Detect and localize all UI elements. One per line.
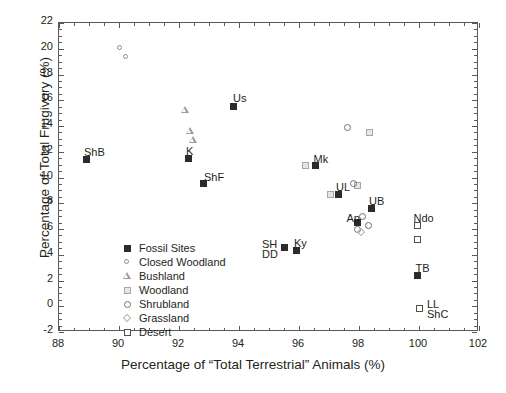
data-point-circle: [350, 180, 357, 187]
y-axis-tick: [59, 326, 62, 327]
x-axis-tick-top: [329, 23, 330, 26]
y-axis-tick: [59, 42, 62, 43]
y-axis-tick: [59, 306, 64, 307]
y-axis-tick-right: [474, 216, 477, 217]
y-axis-tick: [59, 229, 64, 230]
x-axis-tick-top: [74, 23, 75, 26]
y-axis-tick-label: 4: [23, 246, 53, 258]
legend-label: Woodland: [139, 284, 188, 296]
x-axis-tick-top: [299, 23, 300, 28]
data-point-small-square: [327, 191, 334, 198]
y-axis-tick-right: [474, 36, 477, 37]
y-axis-tick-right: [472, 255, 477, 256]
y-axis-tick-right: [474, 235, 477, 236]
data-point-label: UL: [336, 181, 350, 193]
data-point-label: DD: [262, 248, 278, 260]
x-axis-tick-label: 88: [38, 337, 78, 349]
data-point-triangle: [189, 136, 197, 143]
x-axis-tick: [359, 326, 360, 331]
data-point-label: TB: [416, 262, 430, 274]
scatter-plot-figure: Percentage of Total Frugivory (%) Percen…: [0, 0, 506, 393]
legend-label: Grassland: [139, 312, 189, 324]
x-axis-tick: [464, 328, 465, 331]
legend-item-woodland[interactable]: Woodland: [119, 283, 259, 297]
x-axis-tick: [479, 326, 480, 331]
x-axis-tick-top: [479, 23, 480, 28]
y-axis-tick-right: [474, 300, 477, 301]
x-axis-tick-label: 102: [458, 337, 498, 349]
data-point-label: Ky: [294, 237, 307, 249]
legend-item-grassland[interactable]: Grassland: [119, 311, 259, 325]
x-axis-title: Percentage of “Total Terrestrial” Animal…: [0, 357, 506, 372]
y-axis-tick: [59, 332, 64, 333]
y-axis-tick-right: [474, 184, 477, 185]
y-axis-tick-right: [474, 81, 477, 82]
x-axis-tick: [119, 326, 120, 331]
x-axis-tick-label: 100: [398, 337, 438, 349]
data-point-triangle: [181, 106, 189, 113]
y-axis-tick: [59, 75, 64, 76]
x-axis-tick-label: 96: [278, 337, 318, 349]
y-axis-tick: [59, 287, 62, 288]
x-axis-tick-top: [149, 23, 150, 26]
data-point-label: ShB: [84, 146, 105, 158]
x-axis-tick: [269, 328, 270, 331]
x-axis-tick-top: [344, 23, 345, 26]
x-axis-tick: [89, 328, 90, 331]
data-point-circle: [359, 213, 366, 220]
data-point-triangle: [186, 127, 194, 134]
x-axis-tick-top: [209, 23, 210, 26]
y-axis-tick-right: [474, 248, 477, 249]
y-axis-tick: [59, 216, 62, 217]
y-axis-tick: [59, 107, 62, 108]
y-axis-tick: [59, 68, 62, 69]
legend-item-shrubland[interactable]: Shrubland: [119, 297, 259, 311]
y-axis-tick-right: [474, 55, 477, 56]
x-axis-tick-top: [194, 23, 195, 26]
x-axis-tick-label: 92: [158, 337, 198, 349]
legend: Fossil SitesClosed WoodlandBushlandWoodl…: [119, 241, 259, 339]
y-axis-tick: [59, 255, 64, 256]
data-point-label: ShC: [427, 308, 448, 320]
data-point-filled-square: [281, 244, 288, 251]
data-point-label: ShF: [204, 171, 224, 183]
y-axis-tick-right: [474, 29, 477, 30]
y-axis-tick: [59, 313, 62, 314]
x-axis-tick-top: [224, 23, 225, 26]
y-axis-tick-right: [474, 107, 477, 108]
x-axis-tick-top: [314, 23, 315, 26]
x-axis-tick-top: [374, 23, 375, 26]
y-axis-tick: [59, 281, 64, 282]
x-axis-tick: [419, 326, 420, 331]
y-axis-tick: [59, 132, 62, 133]
y-axis-tick: [59, 235, 62, 236]
x-axis-tick: [149, 328, 150, 331]
y-axis-tick-right: [474, 319, 477, 320]
y-axis-tick: [59, 165, 62, 166]
y-axis-tick-right: [472, 75, 477, 76]
y-axis-tick: [59, 248, 62, 249]
y-axis-tick: [59, 184, 62, 185]
y-axis-tick-label: 2: [23, 272, 53, 284]
legend-item-fossil-sites[interactable]: Fossil Sites: [119, 241, 259, 255]
y-axis-tick-right: [472, 281, 477, 282]
y-axis-tick-right: [472, 178, 477, 179]
x-axis-tick: [329, 328, 330, 331]
x-axis-tick: [344, 328, 345, 331]
y-axis-tick-right: [474, 293, 477, 294]
y-axis-tick-right: [472, 229, 477, 230]
y-axis-tick-right: [474, 242, 477, 243]
x-axis-tick: [179, 326, 180, 331]
x-axis-tick-top: [179, 23, 180, 28]
legend-marker-small-circle-icon: [119, 255, 135, 269]
x-axis-tick: [194, 328, 195, 331]
data-point-small-circle: [117, 45, 122, 50]
legend-item-closed-woodland[interactable]: Closed Woodland: [119, 255, 259, 269]
y-axis-tick-right: [474, 274, 477, 275]
y-axis-tick-right: [474, 165, 477, 166]
y-axis-tick-right: [474, 210, 477, 211]
y-axis-tick-label: 20: [23, 40, 53, 52]
y-axis-tick-label: 0: [23, 297, 53, 309]
x-axis-tick: [284, 328, 285, 331]
legend-item-bushland[interactable]: Bushland: [119, 269, 259, 283]
